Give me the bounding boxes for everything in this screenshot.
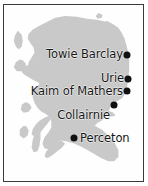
site-label-kaim-of-mathers: Kaim of Mathers [31,85,123,97]
site-label-collairnie: Collairnie [57,109,110,121]
site-marker-towie-barclay[interactable] [124,52,131,59]
site-marker-perceton[interactable] [71,135,78,142]
site-label-towie-barclay: Towie Barclay [46,48,123,60]
map-frame: Towie Barclay Urie Kaim of Mathers Colla… [3,4,144,182]
site-label-perceton: Perceton [80,132,130,144]
site-label-urie: Urie [101,72,124,84]
site-marker-kaim-of-mathers[interactable] [124,88,131,95]
site-markers-layer: Towie Barclay Urie Kaim of Mathers Colla… [4,5,144,182]
map-figure: Towie Barclay Urie Kaim of Mathers Colla… [0,0,148,186]
site-marker-urie[interactable] [125,76,132,83]
site-marker-collairnie[interactable] [111,102,118,109]
